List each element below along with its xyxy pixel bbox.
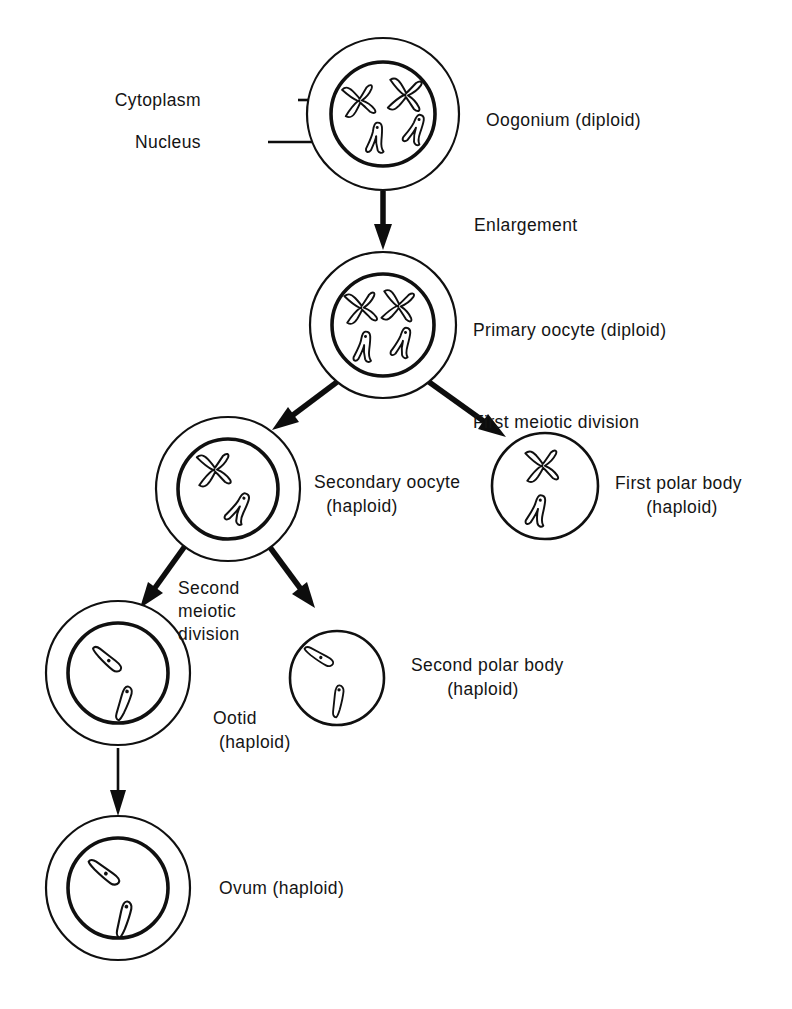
- stage-label-secondary-oocyte: Secondary oocyte (haploid): [314, 472, 461, 516]
- cell-first-polar-body: [492, 433, 598, 539]
- svg-text:Second: Second: [178, 578, 240, 598]
- arrow-maturation: [110, 748, 126, 816]
- svg-text:(haploid): (haploid): [326, 496, 398, 516]
- cell-oogonium: [307, 38, 459, 190]
- cell-ootid: [46, 601, 190, 745]
- svg-text:division: division: [178, 624, 240, 644]
- svg-text:Secondary oocyte: Secondary oocyte: [314, 472, 461, 492]
- stage-label-first-polar-body: First polar body (haploid): [615, 473, 742, 517]
- transition-label-second-meiotic-division: Second meiotic division: [178, 578, 240, 644]
- primary-oocyte-nucleus: [332, 274, 434, 376]
- svg-text:meiotic: meiotic: [178, 601, 236, 621]
- cell-secondary-oocyte: [156, 417, 300, 561]
- oogenesis-diagram: Cytoplasm Nucleus Oogonium (diploid) Enl…: [0, 0, 792, 1009]
- cell-primary-oocyte: [310, 252, 456, 398]
- callout-label-nucleus: Nucleus: [135, 132, 201, 152]
- svg-text:(haploid): (haploid): [219, 732, 291, 752]
- callout-label-cytoplasm: Cytoplasm: [115, 90, 201, 110]
- svg-text:Second polar body: Second polar body: [411, 655, 564, 675]
- transition-label-first-meiotic-division: First meiotic division: [473, 412, 639, 432]
- svg-text:(haploid): (haploid): [646, 497, 718, 517]
- transition-label-enlargement: Enlargement: [474, 215, 578, 235]
- arrow-enlargement: [374, 191, 392, 250]
- stage-label-oogonium: Oogonium (diploid): [486, 110, 641, 130]
- stage-label-ovum: Ovum (haploid): [219, 878, 344, 898]
- oogenesis-canvas: Cytoplasm Nucleus Oogonium (diploid) Enl…: [0, 0, 792, 1009]
- cell-ovum: [46, 816, 190, 960]
- stage-label-ootid: Ootid (haploid): [213, 708, 291, 752]
- arrow-second-meiosis-left: [140, 546, 185, 608]
- stage-label-primary-oocyte: Primary oocyte (diploid): [473, 320, 666, 340]
- arrow-first-meiosis-left: [272, 382, 337, 430]
- svg-text:(haploid): (haploid): [447, 679, 519, 699]
- first-polar-body-membrane: [492, 433, 598, 539]
- svg-text:First polar body: First polar body: [615, 473, 742, 493]
- arrow-second-meiosis-right: [269, 546, 315, 608]
- svg-text:Ootid: Ootid: [213, 708, 257, 728]
- stage-label-second-polar-body: Second polar body (haploid): [411, 655, 564, 699]
- cell-second-polar-body: [290, 631, 384, 725]
